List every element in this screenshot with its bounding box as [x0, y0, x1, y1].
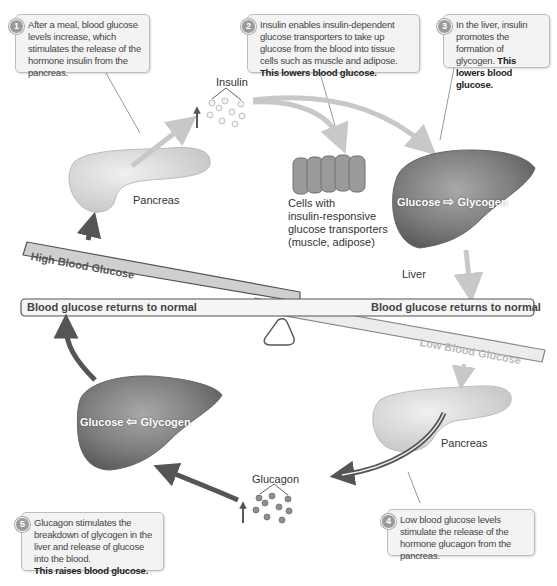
glucagon-label: Glucagon — [252, 473, 299, 485]
callout-5: 5 Glucagon stimulates the breakdown of g… — [21, 512, 164, 571]
glucagon-molecules — [253, 493, 292, 523]
liver-down-arrow — [466, 250, 470, 288]
normal-right-label: Blood glucose returns to normal — [371, 301, 541, 313]
low-glucose-arrow — [462, 364, 464, 378]
glucagon-to-liver-arrow — [165, 470, 238, 500]
callout-4: 4 Low blood glucose levels stimulate the… — [387, 509, 535, 556]
step-badge: 4 — [381, 514, 396, 529]
callout-2: 2 Insulin enables insulin-dependent gluc… — [247, 14, 420, 73]
callout-text: Insulin enables insulin-dependent glucos… — [260, 19, 398, 66]
callout-3: 3 In the liver, insulin promotes the for… — [443, 14, 550, 68]
step-badge: 2 — [241, 19, 256, 34]
liver-label: Liver — [402, 268, 426, 280]
callout-emphasis: This raises blood glucose. — [34, 565, 157, 577]
liver-bottom-reaction: Glucose ⇦ Glycogen — [80, 414, 191, 429]
arrow-left-icon: ⇦ — [126, 414, 137, 429]
callout-1: 1 After a meal, blood glucose levels inc… — [15, 14, 150, 73]
step-badge: 5 — [15, 517, 30, 532]
callout-text: In the liver, insulin promotes the forma… — [456, 19, 527, 66]
liver-top-reaction: Glucose ⇨ Glycogen — [397, 194, 508, 209]
normal-left-label: Blood glucose returns to normal — [27, 301, 197, 313]
step-badge: 1 — [9, 19, 24, 34]
cells-illustration — [293, 155, 365, 194]
insulin-to-cells-arrow — [253, 102, 340, 140]
arrow-right-icon: ⇨ — [443, 194, 454, 209]
cells-label: Cells with insulin-responsive glucose tr… — [288, 197, 388, 249]
pancreas-top-label: Pancreas — [133, 194, 179, 206]
step-badge: 3 — [437, 19, 452, 34]
liver-to-normal-arrow — [66, 326, 95, 380]
callout-emphasis: This lowers blood glucose. — [260, 67, 377, 78]
callout-text: Low blood glucose levels stimulate the r… — [400, 514, 511, 561]
callout-text: Glucagon stimulates the breakdown of gly… — [34, 517, 152, 564]
insulin-molecules — [207, 98, 245, 127]
high-glucose-arrow — [88, 224, 92, 240]
pancreas-bottom-label: Pancreas — [441, 437, 487, 449]
insulin-label: Insulin — [216, 76, 248, 88]
callout-text: After a meal, blood glucose levels incre… — [28, 19, 141, 78]
